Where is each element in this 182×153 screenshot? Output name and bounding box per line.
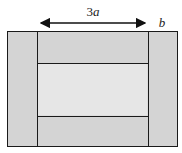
width-label: 3a	[87, 4, 101, 19]
frame-diagram: 3a b	[0, 0, 182, 153]
border-label: b	[159, 15, 166, 30]
center-panel	[38, 64, 148, 116]
